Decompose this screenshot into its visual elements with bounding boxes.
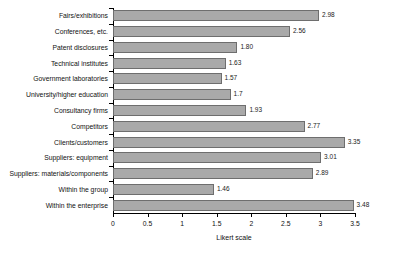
y-axis-tick bbox=[109, 55, 113, 56]
y-axis-tick bbox=[109, 103, 113, 104]
bar bbox=[113, 105, 246, 116]
bar bbox=[113, 26, 290, 37]
bar-row: 1.80 bbox=[113, 42, 355, 53]
bar-value-label: 1.46 bbox=[217, 183, 230, 194]
y-axis-tick bbox=[109, 134, 113, 135]
bar-value-label: 2.77 bbox=[308, 120, 321, 131]
category-label: Competitors bbox=[0, 121, 108, 132]
category-label: Suppliers: materials/components bbox=[0, 168, 108, 179]
category-label: Fairs/exhibitions bbox=[0, 10, 108, 21]
x-axis-line bbox=[113, 213, 355, 214]
x-axis-tick bbox=[286, 213, 287, 217]
y-axis-tick bbox=[109, 197, 113, 198]
bar-value-label: 1.7 bbox=[234, 88, 243, 99]
bar-chart: 2.982.561.801.631.571.71.932.773.353.012… bbox=[0, 0, 415, 254]
category-label: Technical institutes bbox=[0, 58, 108, 69]
bar-value-label: 2.89 bbox=[316, 167, 329, 178]
bar-value-label: 3.48 bbox=[357, 199, 370, 210]
x-axis-tick bbox=[251, 213, 252, 217]
category-label: Clients/customers bbox=[0, 137, 108, 148]
y-axis-tick bbox=[109, 166, 113, 167]
category-label: Patent disclosures bbox=[0, 42, 108, 53]
category-label: Consultancy firms bbox=[0, 105, 108, 116]
bar-row: 1.57 bbox=[113, 73, 355, 84]
bar bbox=[113, 58, 226, 69]
category-label: Conferences, etc. bbox=[0, 26, 108, 37]
category-label: Suppliers: equipment bbox=[0, 152, 108, 163]
x-axis-tick bbox=[113, 213, 114, 217]
bar bbox=[113, 89, 231, 100]
x-axis-tick-label: 0 bbox=[98, 219, 128, 228]
bar-row: 1.46 bbox=[113, 184, 355, 195]
bar-value-label: 1.57 bbox=[225, 72, 238, 83]
y-axis-tick bbox=[109, 150, 113, 151]
y-axis-tick bbox=[109, 71, 113, 72]
bar bbox=[113, 137, 345, 148]
x-axis-tick-label: 1 bbox=[167, 219, 197, 228]
x-axis-tick-label: 2.5 bbox=[271, 219, 301, 228]
y-axis-tick bbox=[109, 87, 113, 88]
bar bbox=[113, 184, 214, 195]
bar-value-label: 3.01 bbox=[324, 151, 337, 162]
bar-row: 1.63 bbox=[113, 58, 355, 69]
x-axis-tick bbox=[355, 213, 356, 217]
category-label: Government laboratories bbox=[0, 73, 108, 84]
bar bbox=[113, 121, 305, 132]
bar bbox=[113, 42, 237, 53]
bar-row: 2.77 bbox=[113, 121, 355, 132]
bar-row: 3.01 bbox=[113, 152, 355, 163]
bar-row: 1.93 bbox=[113, 105, 355, 116]
y-axis-tick bbox=[109, 118, 113, 119]
y-axis-tick bbox=[109, 181, 113, 182]
x-axis-title: Likert scale bbox=[113, 234, 355, 241]
x-axis-tick bbox=[148, 213, 149, 217]
x-axis-tick-label: 2 bbox=[236, 219, 266, 228]
category-label: University/higher education bbox=[0, 89, 108, 100]
y-axis-tick bbox=[109, 8, 113, 9]
x-axis-tick bbox=[217, 213, 218, 217]
bar-value-label: 1.80 bbox=[240, 41, 253, 52]
x-axis-tick bbox=[182, 213, 183, 217]
x-axis-tick-label: 0.5 bbox=[133, 219, 163, 228]
bar bbox=[113, 10, 319, 21]
y-axis-tick bbox=[109, 24, 113, 25]
x-axis-tick-label: 1.5 bbox=[202, 219, 232, 228]
bar bbox=[113, 73, 222, 84]
bar-row: 2.98 bbox=[113, 10, 355, 21]
category-label: Within the group bbox=[0, 184, 108, 195]
x-axis-tick bbox=[320, 213, 321, 217]
x-axis-tick-label: 3.5 bbox=[340, 219, 370, 228]
bar-value-label: 2.56 bbox=[293, 25, 306, 36]
bar-row: 2.56 bbox=[113, 26, 355, 37]
bar bbox=[113, 200, 354, 211]
bar-value-label: 1.93 bbox=[249, 104, 262, 115]
x-axis-tick-label: 3 bbox=[305, 219, 335, 228]
bar-value-label: 2.98 bbox=[322, 9, 335, 20]
bar-row: 3.48 bbox=[113, 200, 355, 211]
y-axis-tick bbox=[109, 40, 113, 41]
category-label: Within the enterprise bbox=[0, 200, 108, 211]
bar-value-label: 3.35 bbox=[348, 136, 361, 147]
bar-row: 3.35 bbox=[113, 137, 355, 148]
bar-value-label: 1.63 bbox=[229, 57, 242, 68]
bar-row: 2.89 bbox=[113, 168, 355, 179]
bar bbox=[113, 152, 321, 163]
bar-row: 1.7 bbox=[113, 89, 355, 100]
bar bbox=[113, 168, 313, 179]
